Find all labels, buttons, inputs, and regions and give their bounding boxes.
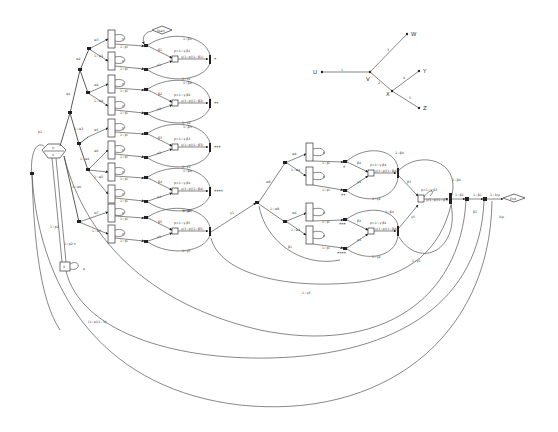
label: 1−β4 <box>395 151 404 155</box>
tree-node-y <box>418 70 420 72</box>
branch-label: 1−w3 <box>74 127 83 131</box>
label: β1 <box>473 210 477 214</box>
label: γ1 <box>157 63 161 67</box>
label: 1−pi <box>120 67 128 71</box>
small-box-loop-label: p <box>83 267 85 271</box>
label: ρ=1−γ·β2 <box>174 93 190 97</box>
label: 1−γ5 <box>302 291 311 295</box>
start-label: Start <box>157 29 166 33</box>
label: γ(1−ρ)(1−β3) <box>181 143 203 147</box>
tree-label-w: W <box>411 31 417 37</box>
branch-label: 1−w5 <box>94 175 103 179</box>
edge-to-stack <box>88 150 108 170</box>
label: 1−β1 <box>473 193 482 197</box>
tree-edge-label: 4 <box>403 76 405 80</box>
mark: * <box>343 165 346 170</box>
label: ρ=1−γ·β4 <box>370 221 386 225</box>
tree-edge-label: 3 <box>387 48 389 52</box>
branch-label: w5 <box>94 128 99 132</box>
transition-bar <box>86 91 90 94</box>
label: β4 <box>357 219 361 223</box>
transition-bar <box>144 112 148 115</box>
branch-label: w2 <box>76 57 81 61</box>
stack-loop-label: p <box>122 232 124 236</box>
edge <box>211 203 256 232</box>
stack-loop-label: p <box>122 192 124 196</box>
transition-bar <box>30 172 34 175</box>
tree-edge-v-w <box>370 34 407 72</box>
transition-bar <box>87 47 91 50</box>
tree-edge-x-y <box>392 71 419 91</box>
stack-box <box>108 97 115 115</box>
tree-edge-label: 5 <box>409 96 411 100</box>
edge-label-b: 1−p2·V <box>64 242 77 246</box>
branch-label: 1−w2 <box>94 99 103 103</box>
label: γ5 <box>411 215 415 219</box>
module-box <box>172 144 178 150</box>
edge-to-stack <box>88 170 108 172</box>
stack-loop-label: p <box>122 126 124 130</box>
small-box-loop <box>70 262 78 269</box>
label: γ1 <box>230 211 234 215</box>
transition-bar <box>209 99 211 108</box>
module-2: 1−pi 1−pi β2 γ2 ρ=1−γ·β2 γ(1−ρ)(1−β2) 1−… <box>115 80 219 125</box>
branch-edge <box>80 49 89 70</box>
stack-loop-label: p <box>122 104 124 108</box>
label: γ(1−ρ)(1−β4) <box>375 169 397 173</box>
transition-bar <box>144 176 148 179</box>
end-label: End <box>510 197 516 201</box>
hex-loop-label: p1 <box>38 130 42 134</box>
arc-bottom <box>347 178 398 199</box>
label: β2 <box>158 92 162 96</box>
stack-box <box>108 225 115 243</box>
transition-bar <box>283 220 287 223</box>
stack-box <box>306 167 313 185</box>
transition-bar <box>68 111 72 114</box>
tree-edge-label: 2 <box>378 81 380 85</box>
transition-bar <box>343 247 347 250</box>
module-box <box>172 228 178 234</box>
label: 1−pi <box>322 220 330 224</box>
module-1: 1−pi 1−pi β1 γ1 ρ=1−γ·β1 γ(1−ρ)(1−β1) 1−… <box>115 36 217 81</box>
label: 1−β1 <box>183 37 192 41</box>
stack-box <box>108 204 115 222</box>
mark: ** <box>214 101 219 106</box>
module-box <box>418 195 424 202</box>
transition-bar <box>209 55 211 64</box>
tree-label-z: Z <box>423 105 427 111</box>
label: 1−pi <box>120 89 128 93</box>
transition-bar <box>343 218 347 221</box>
label: w4 <box>292 211 297 215</box>
branch-edge <box>60 113 70 146</box>
label: 1−β5 <box>183 209 192 213</box>
arc-bottom <box>399 204 452 253</box>
stack-box <box>108 52 115 70</box>
module-box <box>172 188 178 194</box>
tree-edge-x-z <box>392 91 419 108</box>
stack-box <box>108 75 115 93</box>
transition-bar <box>483 197 487 201</box>
module-box <box>172 100 178 106</box>
label: 1−γ4 <box>372 197 381 201</box>
label: β3 <box>407 180 411 184</box>
tree-label-u: U <box>313 69 317 75</box>
start-edge <box>143 31 152 44</box>
label: γ4 <box>157 195 161 199</box>
label: β4 <box>158 180 162 184</box>
right-stacks: p p p p <box>306 143 325 244</box>
mark: ** <box>341 193 346 198</box>
label: 1−pi <box>120 45 128 49</box>
label: 1−β1 <box>455 193 464 197</box>
branch-tree-left: w1 w2 w3 1−w1 w4 1−w2 1−w3 w5 1−w4 w6 1−… <box>60 38 108 234</box>
feedback-curve <box>32 175 492 407</box>
label: γ2 <box>157 107 161 111</box>
hex-left-curve <box>32 145 61 330</box>
label: 1−pi <box>120 133 128 137</box>
label: β1 <box>288 245 292 249</box>
branch-edge <box>70 70 80 113</box>
transition-bar <box>144 132 148 135</box>
transition-bar <box>209 187 211 196</box>
transition-bar <box>209 227 211 236</box>
label: β4 <box>357 161 361 165</box>
label: 1−γ4 <box>372 255 381 259</box>
